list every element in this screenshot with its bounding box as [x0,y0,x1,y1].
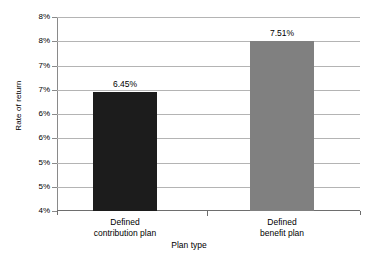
bar-chart: Rate of return 4%5%5%6%6%7%7%8%8% 6.45%7… [0,0,378,269]
y-axis-tick-label: 6% [4,134,50,142]
y-axis-tick-label: 8% [4,13,50,21]
gridline [57,41,360,42]
category-label-line: Defined [222,217,342,228]
x-axis-tick [57,211,58,215]
x-axis-title: Plan type [0,240,378,250]
gridline [57,66,360,67]
category-label-line: contribution plan [65,228,185,239]
category-label-line: benefit plan [222,228,342,239]
y-axis-tick-label: 6% [4,110,50,118]
bar-value-label: 7.51% [250,29,314,38]
y-axis-tick-label: 7% [4,62,50,70]
y-axis-tick-label: 5% [4,159,50,167]
gridline [57,17,360,18]
x-axis-category-label: Definedcontribution plan [65,217,185,239]
y-axis-tick-label: 4% [4,207,50,215]
y-axis-tick-label: 8% [4,37,50,45]
x-axis-tick [360,211,361,215]
gridline [57,90,360,91]
y-axis-tick-label: 7% [4,86,50,94]
bar[interactable] [93,92,157,211]
x-axis-tick [207,211,208,216]
y-axis-tick-labels: 4%5%5%6%6%7%7%8%8% [0,0,50,269]
y-axis-tick-label: 5% [4,183,50,191]
plot-area: 6.45%7.51% [57,17,360,211]
bar-value-label: 6.45% [93,80,157,89]
category-label-line: Defined [65,217,185,228]
x-axis-category-label: Definedbenefit plan [222,217,342,239]
bar[interactable] [250,41,314,211]
